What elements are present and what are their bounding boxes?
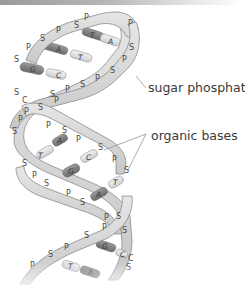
base-letter: C: [86, 153, 92, 162]
svg-text:S: S: [129, 43, 134, 52]
svg-text:S: S: [122, 226, 127, 235]
svg-text:P: P: [76, 135, 81, 144]
svg-text:P: P: [56, 26, 61, 35]
svg-text:P: P: [122, 55, 127, 64]
organic-bases-label: organic bases: [151, 128, 238, 143]
base-pair: G C: [61, 148, 99, 178]
svg-text:C: C: [22, 96, 28, 105]
svg-text:S: S: [74, 21, 79, 30]
svg-text:S: S: [110, 66, 115, 75]
base-letter: A: [95, 190, 101, 199]
svg-text:P: P: [46, 121, 51, 130]
dna-double-helix: T A A T G C A T G C: [0, 0, 245, 293]
svg-text:P: P: [24, 107, 29, 116]
organic-bases-leader-line: [128, 134, 146, 170]
base-letter: G: [68, 167, 74, 176]
svg-text:P: P: [32, 171, 37, 180]
svg-text:S: S: [98, 143, 103, 152]
svg-text:P: P: [66, 189, 71, 198]
svg-text:P: P: [65, 85, 70, 94]
svg-text:S: S: [14, 88, 19, 97]
base-letter: C: [120, 250, 126, 259]
svg-text:P: P: [64, 243, 69, 252]
sugar-phosphate-label: sugar phosphate: [148, 80, 245, 95]
svg-text:S: S: [38, 103, 43, 112]
base-letter: C: [56, 71, 62, 80]
svg-text:S: S: [80, 80, 85, 89]
base-pair: A T: [35, 133, 69, 160]
svg-text:S: S: [12, 127, 17, 136]
svg-text:C: C: [128, 254, 134, 263]
svg-text:S: S: [48, 250, 53, 259]
base-letter: G: [102, 242, 108, 251]
svg-text:S: S: [80, 198, 85, 207]
svg-text:S: S: [62, 126, 67, 135]
svg-text:S: S: [116, 212, 121, 221]
svg-text:P: P: [84, 13, 89, 22]
sugar-phosphate-leader-line: [136, 76, 146, 88]
base-pair: T A: [81, 27, 120, 47]
svg-text:S: S: [124, 166, 129, 175]
svg-text:P: P: [26, 43, 31, 52]
svg-text:P: P: [54, 96, 59, 105]
svg-text:P: P: [102, 223, 107, 232]
svg-text:S: S: [14, 55, 19, 64]
svg-text:P: P: [18, 115, 23, 124]
svg-text:S: S: [22, 159, 27, 168]
base-letter: A: [55, 45, 61, 54]
svg-text:P: P: [112, 155, 117, 164]
base-letter: A: [107, 37, 113, 46]
svg-text:S: S: [40, 34, 45, 43]
base-letter: G: [30, 65, 36, 74]
base-pair: G C: [19, 62, 66, 80]
svg-text:S: S: [44, 179, 49, 188]
svg-text:S: S: [84, 231, 89, 240]
base-letter: A: [56, 136, 62, 145]
svg-text:P: P: [104, 213, 109, 222]
svg-text:P: P: [128, 19, 133, 28]
svg-text:P: P: [95, 74, 100, 83]
